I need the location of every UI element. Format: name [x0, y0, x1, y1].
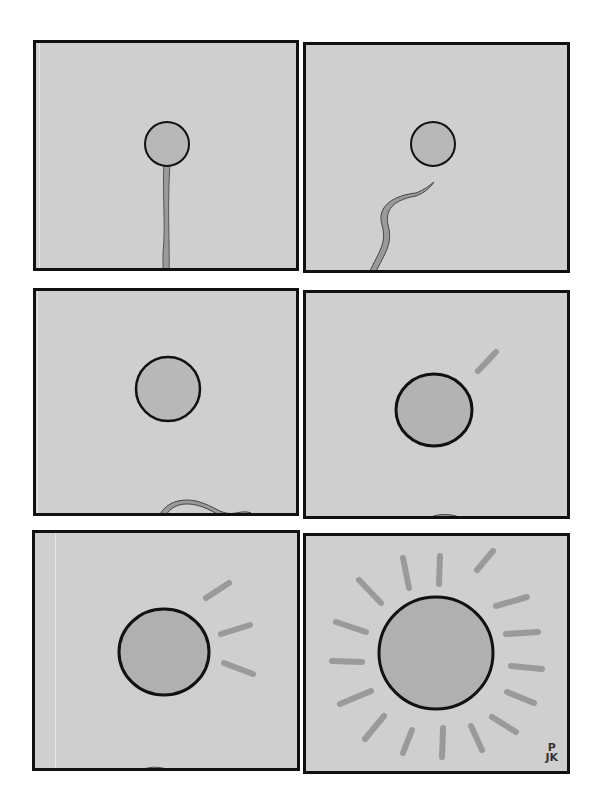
sun-ray-icon	[511, 666, 542, 669]
comic-panel-6: P JK	[303, 533, 570, 774]
sun-ray-icon	[471, 726, 482, 750]
sun-ray-icon	[221, 625, 250, 634]
sun-ray-icon	[340, 691, 371, 704]
sun-ray-icon	[478, 352, 496, 371]
sun-ray-icon	[477, 551, 493, 570]
comic-panel-4	[303, 290, 570, 519]
stem-icon	[163, 163, 170, 271]
full-sun-drawing	[306, 536, 570, 774]
sun-ray-icon	[492, 717, 516, 732]
stem-remnant-icon	[135, 767, 175, 771]
comic-panel-5	[32, 530, 300, 771]
sun-ray-icon	[506, 632, 538, 634]
sun-ray-icon	[332, 661, 362, 662]
growing-circle-drawing	[36, 291, 299, 516]
sun-circle-icon	[145, 122, 189, 166]
sun-ray-icon	[336, 622, 366, 632]
sun-circle-icon	[411, 122, 455, 166]
sun-ray-icon	[403, 730, 412, 753]
artist-signature: P JK	[545, 743, 558, 763]
sun-ray-icon	[496, 597, 527, 606]
sun-ray-icon	[206, 583, 229, 598]
curling-stem-icon	[368, 182, 434, 273]
sun-with-three-rays-drawing	[35, 533, 300, 771]
sun-circle-icon	[379, 597, 493, 709]
stem-remnant-icon	[492, 517, 514, 519]
sun-ray-icon	[507, 692, 534, 703]
sun-circle-icon	[396, 374, 472, 446]
stem-remnant-icon	[185, 770, 213, 771]
sun-ray-icon	[359, 580, 381, 603]
floating-circle-drawing	[306, 45, 570, 273]
comic-panel-2	[303, 42, 570, 273]
stem-remnant-icon	[424, 514, 466, 519]
sun-ray-icon	[224, 663, 253, 674]
comic-panel-1	[33, 40, 299, 271]
sun-circle-icon	[119, 609, 209, 695]
signature-line-2: JK	[545, 753, 558, 763]
sun-ray-icon	[439, 556, 440, 584]
sun-ray-icon	[403, 558, 409, 588]
sun-circle-icon	[136, 357, 200, 421]
sun-with-one-ray-drawing	[306, 293, 570, 519]
lollipop-drawing	[36, 43, 299, 271]
fallen-stem-icon	[158, 500, 251, 516]
sun-ray-icon	[365, 716, 384, 739]
sun-ray-icon	[442, 728, 443, 757]
comic-panel-3	[33, 288, 299, 516]
